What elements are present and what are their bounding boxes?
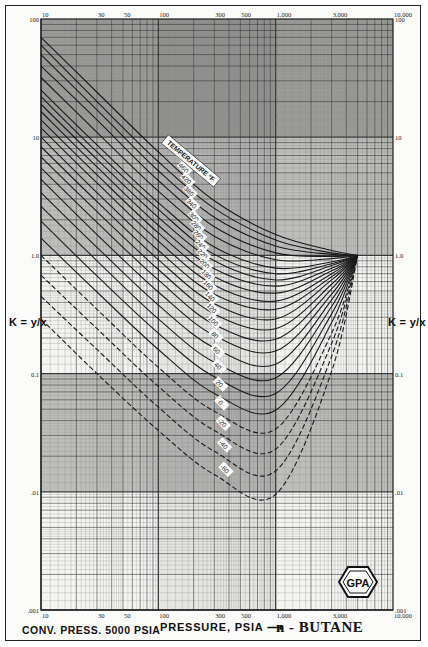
svg-text:1,000: 1,000: [277, 612, 292, 619]
svg-text:0.1: 0.1: [31, 371, 39, 378]
svg-text:300: 300: [215, 11, 225, 18]
k-value-chart: 1010303050501001003003005005001,0001,000…: [0, 0, 428, 647]
svg-text:1,000: 1,000: [277, 11, 292, 18]
svg-text:10: 10: [33, 134, 40, 141]
svg-text:.001: .001: [395, 607, 406, 614]
svg-text:10: 10: [42, 11, 49, 18]
convergence-pressure-label: CONV. PRESS. 5000 PSIA: [22, 624, 160, 636]
svg-text:500: 500: [241, 612, 251, 619]
component-title: n - BUTANE: [276, 619, 363, 636]
svg-text:100: 100: [29, 16, 39, 23]
svg-text:10: 10: [395, 134, 402, 141]
svg-text:300: 300: [215, 612, 225, 619]
svg-text:1.0: 1.0: [395, 252, 403, 259]
svg-text:50: 50: [124, 11, 131, 18]
gpa-logo-icon: GPA: [338, 566, 378, 598]
svg-text:50: 50: [124, 612, 131, 619]
svg-text:3,000: 3,000: [333, 11, 348, 18]
svg-text:3,000: 3,000: [333, 612, 348, 619]
svg-text:.01: .01: [395, 489, 403, 496]
svg-text:30: 30: [98, 612, 105, 619]
y-axis-label-left: K = y/x: [9, 316, 47, 328]
svg-text:.001: .001: [28, 607, 39, 614]
svg-text:1.0: 1.0: [31, 252, 39, 259]
svg-text:100: 100: [159, 612, 169, 619]
y-axis-label-right: K = y/x: [388, 316, 426, 328]
svg-text:.01: .01: [31, 489, 39, 496]
x-axis-label: PRESSURE, PSIA ⟶: [160, 621, 284, 634]
svg-text:100: 100: [159, 11, 169, 18]
svg-text:30: 30: [98, 11, 105, 18]
svg-text:10: 10: [42, 612, 49, 619]
svg-text:0.1: 0.1: [395, 371, 403, 378]
svg-text:100: 100: [395, 16, 405, 23]
svg-text:GPA: GPA: [346, 577, 369, 589]
svg-text:500: 500: [241, 11, 251, 18]
